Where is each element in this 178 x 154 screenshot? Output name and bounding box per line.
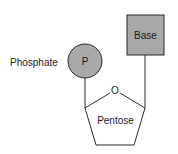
nucleotide-diagram: Base P Phosphate O Pentose — [0, 0, 178, 154]
phosphate-group: P — [68, 44, 102, 78]
phosphate-symbol: P — [82, 56, 89, 67]
base-label: Base — [134, 30, 157, 41]
phosphate-label: Phosphate — [10, 57, 58, 68]
ring-oxygen-label: O — [111, 85, 119, 96]
pentose-ring: O Pentose — [85, 85, 145, 145]
base-group: Base — [127, 15, 164, 55]
pentose-label: Pentose — [97, 115, 134, 126]
